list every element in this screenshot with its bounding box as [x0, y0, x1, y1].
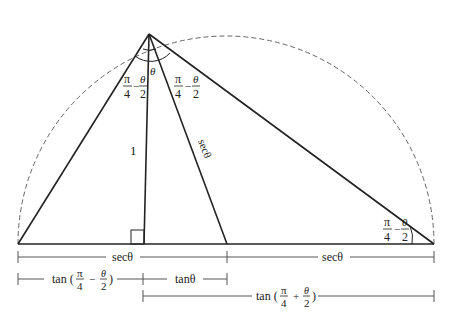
tan-right-theta: θ: [304, 285, 309, 296]
left-angle-4: 4: [124, 87, 130, 101]
tan-right-pi: π: [281, 284, 287, 296]
right-side: [149, 34, 434, 244]
tan-right-op: +: [293, 290, 299, 302]
dimension-row-3: [143, 290, 434, 302]
tan-theta-dimension: tanθ: [175, 272, 196, 286]
left-angle-theta: θ: [140, 73, 146, 85]
tan-left-theta: θ: [101, 268, 106, 279]
tan-left-pi: π: [77, 267, 83, 279]
mid-angle-pi: π: [175, 72, 181, 86]
tan-right-2: 2: [304, 297, 310, 309]
mid-angle-minus: −: [185, 80, 191, 92]
corner-angle-2: 2: [402, 230, 408, 244]
tan-left-2: 2: [101, 280, 107, 292]
apex-theta-label: θ: [150, 65, 156, 77]
corner-angle-minus: −: [394, 223, 400, 235]
trig-diagram: θ π 4 − θ 2 π 4 − θ 2 π 4 − θ 2 1 secθ s…: [0, 0, 452, 327]
mid-angle-4: 4: [175, 87, 181, 101]
tan-left-prefix: tan (: [52, 272, 74, 286]
dimension-row-1: [18, 251, 434, 263]
right-angle-marker: [131, 230, 144, 244]
hypotenuse-label: secθ: [196, 137, 214, 159]
tan-left-op: −: [89, 273, 95, 285]
height-label: 1: [130, 143, 137, 158]
tan-right-suffix: ): [312, 289, 316, 303]
tan-right-4: 4: [281, 297, 287, 309]
mid-angle-theta: θ: [193, 73, 199, 85]
corner-angle-theta: θ: [402, 216, 408, 228]
dimension-row-2: [18, 273, 227, 285]
sec-line: [149, 34, 227, 244]
tan-right-prefix: tan (: [256, 289, 278, 303]
corner-angle-4: 4: [384, 230, 390, 244]
sec-dimension-right: secθ: [322, 250, 343, 264]
tan-left-suffix: ): [109, 272, 113, 286]
left-angle-minus: −: [133, 80, 139, 92]
left-angle-pi: π: [124, 72, 130, 86]
apex-arc-outer: [135, 53, 170, 61]
left-side: [18, 34, 149, 244]
altitude-line: [144, 34, 149, 244]
tan-left-4: 4: [77, 280, 83, 292]
left-angle-2: 2: [140, 87, 146, 101]
mid-angle-2: 2: [193, 87, 199, 101]
sec-dimension-left: secθ: [112, 250, 133, 264]
corner-angle-pi: π: [384, 215, 390, 229]
dashed-semicircle: [18, 36, 434, 244]
